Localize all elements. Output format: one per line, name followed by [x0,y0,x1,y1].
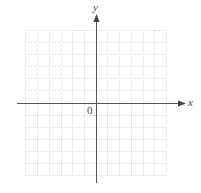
y-axis-arrow-icon [94,14,100,22]
axes [17,20,181,183]
coordinate-plane [0,0,201,193]
x-axis-arrow-icon [178,101,186,107]
y-axis-label: y [93,1,98,13]
origin-label: 0 [87,104,93,116]
x-axis-label: x [188,96,193,108]
